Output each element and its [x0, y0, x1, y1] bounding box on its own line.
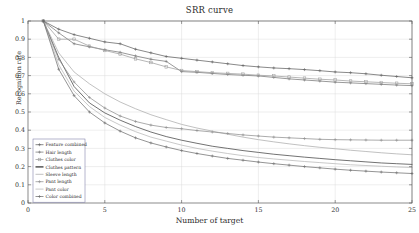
data-point-marker [272, 162, 275, 165]
data-point-marker [380, 171, 383, 174]
data-point-marker [288, 136, 291, 139]
data-point-marker [257, 135, 260, 138]
series-clothes-pattern [43, 21, 412, 164]
data-point-marker [180, 127, 183, 130]
data-point-marker [195, 129, 198, 132]
data-point-marker [211, 155, 214, 158]
data-point-marker [242, 159, 245, 162]
y-tick-label: 0.1 [15, 181, 25, 188]
data-point-marker [134, 54, 137, 57]
data-point-marker [288, 67, 291, 70]
series-hair-length [42, 20, 414, 88]
data-point-marker [119, 42, 122, 45]
data-point-marker [242, 133, 245, 136]
data-point-marker [73, 33, 76, 36]
series-feature-combined [42, 20, 414, 80]
x-axis-label: Number of target [0, 216, 419, 225]
data-point-marker [364, 72, 367, 75]
legend-label: Color combined [46, 194, 82, 199]
series-line [43, 21, 412, 168]
x-tick-label: 25 [408, 206, 416, 213]
legend-label: Hair length [46, 150, 72, 155]
data-point-marker [318, 80, 321, 83]
legend-label: Clothes color [46, 157, 77, 162]
data-point-marker [149, 51, 152, 54]
data-point-marker [134, 120, 137, 123]
data-point-marker [57, 68, 60, 71]
data-point-marker [134, 136, 137, 139]
series-line [43, 21, 412, 140]
data-point-marker [180, 149, 183, 152]
data-point-marker [364, 139, 367, 142]
series-line [43, 21, 412, 164]
chart-legend[interactable]: Feature combinedHair lengthClothes color… [33, 139, 87, 202]
data-point-marker [149, 58, 152, 61]
data-point-marker [349, 81, 352, 84]
data-point-marker [195, 152, 198, 155]
data-point-marker [242, 64, 245, 67]
data-point-marker [57, 28, 60, 31]
data-point-marker [165, 126, 168, 129]
data-point-marker [364, 170, 367, 173]
data-point-marker [380, 74, 383, 77]
data-point-marker [303, 68, 306, 71]
data-point-marker [349, 138, 352, 141]
data-point-marker [119, 115, 122, 118]
data-point-marker [303, 137, 306, 140]
legend-label: Sleeve length [46, 172, 77, 177]
y-tick-label: 0.2 [15, 163, 25, 170]
y-tick-label: 0.3 [15, 145, 25, 152]
data-point-marker [272, 66, 275, 69]
data-point-marker [395, 139, 398, 142]
data-point-marker [334, 168, 337, 171]
data-point-marker [380, 83, 383, 86]
data-point-marker [226, 157, 229, 160]
series-line [43, 21, 412, 78]
series-pant-color [43, 21, 412, 168]
data-point-marker [257, 161, 260, 164]
data-point-marker [288, 77, 291, 80]
data-point-marker [318, 69, 321, 72]
data-point-marker [349, 169, 352, 172]
data-point-marker [318, 138, 321, 141]
x-tick-label: 20 [331, 206, 339, 213]
series-layer [42, 20, 414, 176]
data-point-marker [303, 165, 306, 168]
x-tick-label: 15 [254, 206, 262, 213]
chart-figure: SRR curve 00.10.20.30.40.50.60.70.80.910… [0, 0, 419, 233]
data-point-marker [103, 40, 106, 43]
data-point-marker [395, 171, 398, 174]
data-point-marker [349, 71, 352, 74]
series-pant-length [42, 20, 414, 142]
x-tick-label: 0 [26, 206, 30, 213]
data-point-marker [195, 59, 198, 62]
legend-label: Pant length [46, 179, 72, 184]
legend-label: Clothes pattern [46, 165, 82, 170]
legend-label: Feature combined [46, 142, 88, 147]
x-tick-label: 5 [103, 206, 107, 213]
legend-label: Pant color [46, 187, 70, 192]
data-point-marker [272, 136, 275, 139]
data-point-marker [334, 70, 337, 73]
plot-canvas: 00.10.20.30.40.50.60.70.80.910510152025 … [0, 0, 419, 233]
grid-layer [28, 21, 412, 203]
series-color-combined [42, 20, 414, 176]
y-tick-label: 0 [21, 199, 25, 206]
x-tick-label: 10 [178, 206, 186, 213]
data-point-marker [165, 145, 168, 148]
data-point-marker [380, 139, 383, 142]
data-point-marker [334, 138, 337, 141]
data-point-marker [134, 48, 137, 51]
data-point-marker [226, 62, 229, 65]
data-point-marker [149, 124, 152, 127]
data-point-marker [211, 60, 214, 63]
data-point-marker [149, 141, 152, 144]
y-axis-label: Recognition rate [15, 23, 23, 133]
legend-box [33, 139, 85, 202]
data-point-marker [288, 164, 291, 167]
data-point-marker [257, 65, 260, 68]
